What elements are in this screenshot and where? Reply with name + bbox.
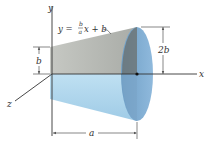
z-axis — [15, 74, 52, 101]
y-axis-label: y — [47, 3, 54, 13]
equation-numerator: b — [79, 20, 83, 27]
dimension-a: a — [53, 122, 137, 139]
dimension-b-label: b — [36, 56, 42, 66]
center-point — [135, 72, 138, 75]
z-axis-label: z — [6, 99, 12, 109]
dimension-2b-label: 2b — [157, 45, 170, 55]
x-axis-label: x — [199, 69, 204, 79]
equation-denominator: a — [79, 28, 83, 35]
dimension-a-label: a — [89, 128, 94, 138]
frustum-diagram: y x z y = b a x + b b 2b a — [0, 0, 207, 148]
equation-prefix: y = — [57, 24, 73, 34]
dimension-b: b — [33, 47, 50, 74]
equation-label: y = b a x + b — [57, 20, 111, 35]
